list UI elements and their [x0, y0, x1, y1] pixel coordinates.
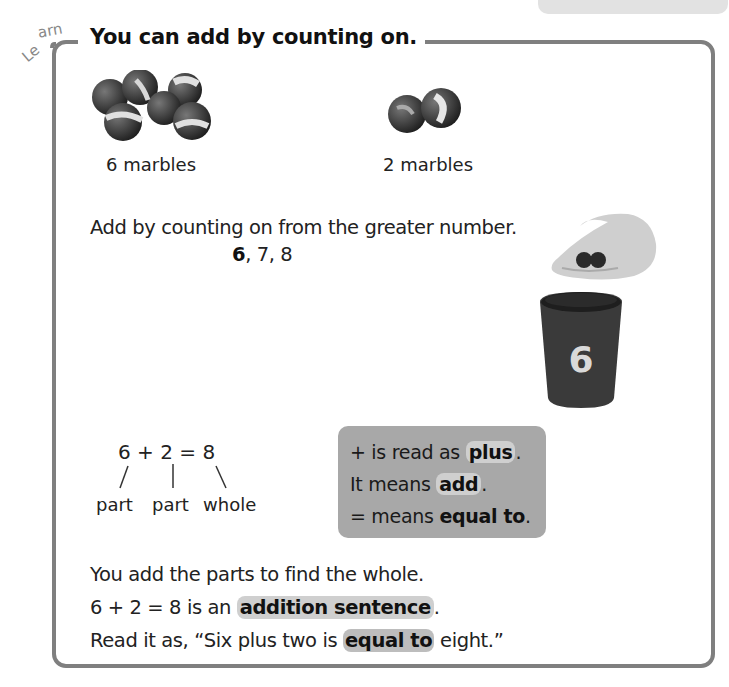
six-marbles-image — [88, 70, 218, 146]
cup-number: 6 — [568, 339, 593, 380]
vocab-line-equal: = means equal to. — [350, 500, 546, 532]
learn-tag-icon: Le arn — [20, 22, 90, 72]
two-marbles-image — [383, 86, 467, 136]
top-tab-text: more than — [592, 0, 675, 3]
counting-instruction: Add by counting on from the greater numb… — [90, 216, 517, 239]
term-equal-to-2: equal to — [343, 629, 434, 652]
term-addition-sentence: addition sentence — [237, 596, 434, 619]
vocabulary-box: + is read as plus. It means add. = means… — [338, 426, 546, 538]
two-marbles-label: 2 marbles — [383, 154, 473, 175]
svg-text:arn: arn — [36, 22, 63, 42]
svg-text:Le: Le — [20, 41, 43, 66]
counting-rest: , 7, 8 — [245, 243, 292, 266]
six-marbles-label: 6 marbles — [106, 154, 196, 175]
term-add: add — [436, 473, 481, 495]
part-whole-marks — [108, 462, 268, 492]
counting-start: 6 — [232, 243, 245, 266]
hand-with-marbles-image — [548, 208, 660, 284]
top-tab: more than — [538, 0, 728, 14]
summary-line-1: You add the parts to find the whole. — [90, 563, 424, 586]
equation: 6 + 2 = 8 — [118, 440, 215, 464]
term-equal-to: equal to — [439, 505, 525, 527]
label-whole: whole — [203, 494, 256, 515]
lesson-title: You can add by counting on. — [90, 25, 425, 49]
label-part-2: part — [152, 494, 189, 515]
summary-line-2: 6 + 2 = 8 is an addition sentence. — [90, 596, 440, 619]
vocab-line-plus: + is read as plus. — [350, 436, 546, 468]
label-part-1: part — [96, 494, 133, 515]
vocab-line-add: It means add. — [350, 468, 546, 500]
term-plus: plus — [466, 441, 516, 463]
summary-line-3: Read it as, “Six plus two is equal to ei… — [90, 629, 503, 652]
counting-sequence: 6, 7, 8 — [232, 243, 292, 266]
cup-image: 6 — [536, 288, 626, 410]
